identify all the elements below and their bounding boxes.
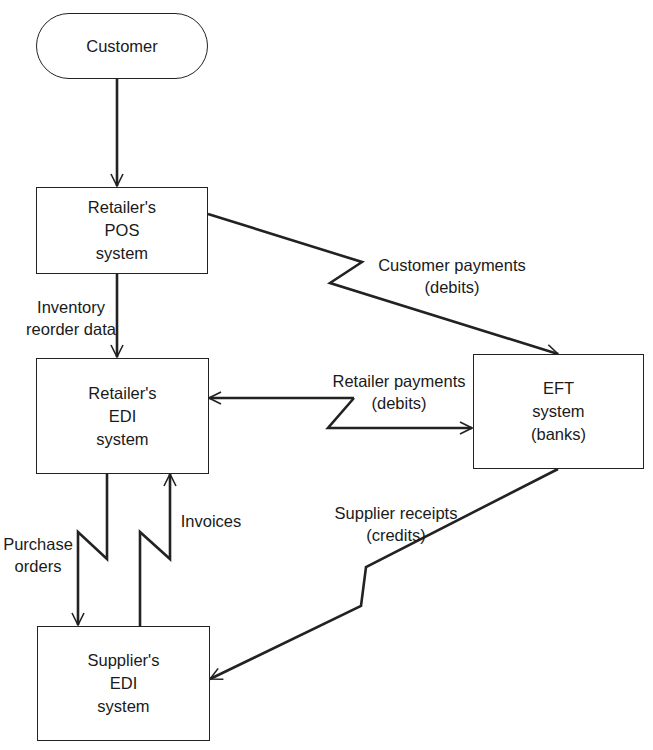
customer-node-label: Customer (86, 35, 158, 58)
edge-purchase-orders (78, 474, 107, 625)
retailer-pos-node: Retailer's POS system (36, 187, 208, 274)
supplier-edi-node-label: Supplier's EDI system (88, 649, 160, 718)
edge-invoices (140, 474, 170, 626)
customer-payments-label: Customer payments (debits) (372, 254, 532, 298)
supplier-edi-node: Supplier's EDI system (37, 626, 210, 741)
supplier-receipts-label: Supplier receipts (credits) (331, 502, 461, 546)
eft-node-label: EFT system (banks) (531, 377, 586, 446)
edge-supplier-receipts (210, 469, 558, 679)
retailer-edi-node-label: Retailer's EDI system (88, 382, 156, 451)
retailer-payments-label: Retailer payments (debits) (329, 370, 469, 414)
eft-node: EFT system (banks) (473, 354, 644, 469)
retailer-edi-node: Retailer's EDI system (36, 358, 209, 474)
inventory-reorder-label: Inventory reorder data (18, 296, 124, 340)
invoices-label: Invoices (178, 510, 244, 532)
retailer-pos-node-label: Retailer's POS system (88, 196, 156, 265)
customer-node: Customer (36, 13, 208, 79)
purchase-orders-label: Purchase orders (2, 533, 74, 577)
